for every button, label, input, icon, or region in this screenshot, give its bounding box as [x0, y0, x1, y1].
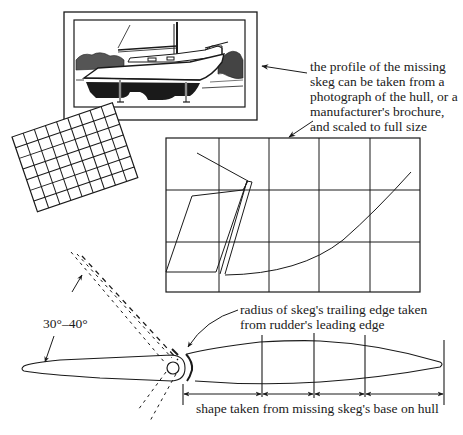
hull-photograph — [64, 12, 257, 120]
leader-arrows — [262, 66, 313, 137]
note-line: photograph of the hull, or a — [310, 89, 458, 104]
note-line: manufacturer's brochure, — [310, 104, 458, 119]
radius-note: radius of skeg's trailing edge taken fro… — [240, 302, 427, 332]
note-line: skeg can be taken from a — [310, 74, 458, 89]
skeg-rudder-profile — [166, 153, 411, 275]
note-line: the profile of the missing — [310, 59, 458, 74]
rudder-pivot — [167, 362, 179, 374]
note-line: radius of skeg's trailing edge taken — [240, 302, 427, 317]
arrow-to-photo — [262, 66, 307, 73]
rudder-angle-label: 30°–40° — [43, 316, 88, 331]
radius-leader-arrow — [188, 310, 238, 347]
full-size-grid — [166, 138, 420, 292]
profile-source-note: the profile of the missing skeg can be t… — [310, 59, 458, 134]
note-line: from rudder's leading edge — [240, 317, 427, 332]
rudder-deflected-dashed — [71, 252, 178, 421]
shape-source-note: shape taken from missing skeg's base on … — [196, 401, 439, 416]
note-line: and scaled to full size — [310, 119, 458, 134]
